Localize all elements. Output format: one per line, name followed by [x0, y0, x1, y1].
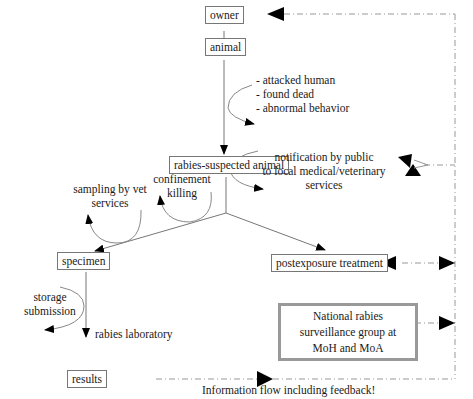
label-confinement-killing: confinement killing [147, 172, 217, 200]
label-animal-triggers: - attacked human - found dead - abnormal… [256, 73, 349, 115]
group-right-arrowhead [439, 316, 455, 330]
notification-arrowhead-upper [398, 154, 412, 168]
label-sampling: sampling by vet services [70, 182, 150, 210]
label-storage-submission: storage submission [20, 290, 80, 318]
node-postexposure-treatment: postexposure treatment [271, 254, 388, 272]
diagram-caption: Information flow including feedback! [202, 384, 375, 396]
node-national-surveillance-group: National rabies surveillance group at Mo… [278, 303, 418, 361]
rabies-surveillance-diagram: owner animal rabies-suspected animal spe… [0, 0, 473, 399]
node-owner: owner [205, 6, 244, 24]
notification-arrowhead-lower [405, 164, 421, 176]
group-line-1: National rabies [285, 308, 411, 324]
postexposure-right-arrowhead [439, 256, 455, 270]
label-rabies-laboratory: rabies laboratory [95, 327, 173, 341]
owner-feedback-arrowhead [267, 7, 284, 21]
animal-triggers-curve [228, 85, 254, 124]
node-specimen: specimen [57, 252, 110, 270]
branch-postexposure-arrow [226, 213, 325, 250]
node-animal: animal [205, 38, 246, 56]
group-line-2: surveillance group at [285, 324, 411, 340]
group-line-3: MoH and MoA [285, 340, 411, 356]
label-notification: notification by public to local medical/… [254, 150, 394, 192]
sampling-curve [88, 210, 141, 243]
branch-specimen-arrow [95, 213, 226, 251]
node-results: results [67, 370, 107, 388]
